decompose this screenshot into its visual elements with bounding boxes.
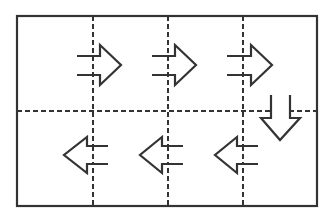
snake-reading-order-diagram bbox=[0, 0, 331, 217]
diagram-svg bbox=[0, 0, 331, 217]
